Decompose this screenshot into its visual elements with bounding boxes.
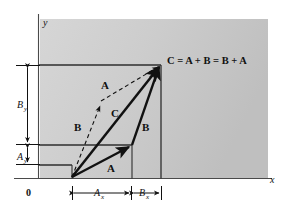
figure-container: y x 0 A C B B A C = A + B = B + A [0, 0, 282, 213]
dim-label-ay-base: A [16, 151, 24, 162]
vector-label-a-upper: A [101, 79, 109, 91]
y-axis-label: y [42, 17, 48, 28]
dim-label-ax-sub: x [100, 193, 105, 201]
dim-label-by-base: B [17, 99, 23, 110]
vector-label-a-lower: A [107, 162, 115, 174]
x-axis-label: x [269, 174, 275, 185]
origin-label: 0 [26, 187, 31, 198]
vector-label-b-solid: B [142, 121, 150, 133]
dim-label-bx-base: B [139, 187, 145, 198]
dim-label-ax-base: A [93, 187, 101, 198]
vector-label-c: C [111, 107, 119, 119]
dim-label-bx-sub: x [145, 193, 150, 201]
resultant-equation: C = A + B = B + A [167, 55, 247, 66]
vector-addition-diagram: y x 0 A C B B A C = A + B = B + A [0, 0, 282, 213]
vector-label-b-dashed: B [74, 121, 82, 133]
shaded-background-panel [40, 19, 268, 178]
